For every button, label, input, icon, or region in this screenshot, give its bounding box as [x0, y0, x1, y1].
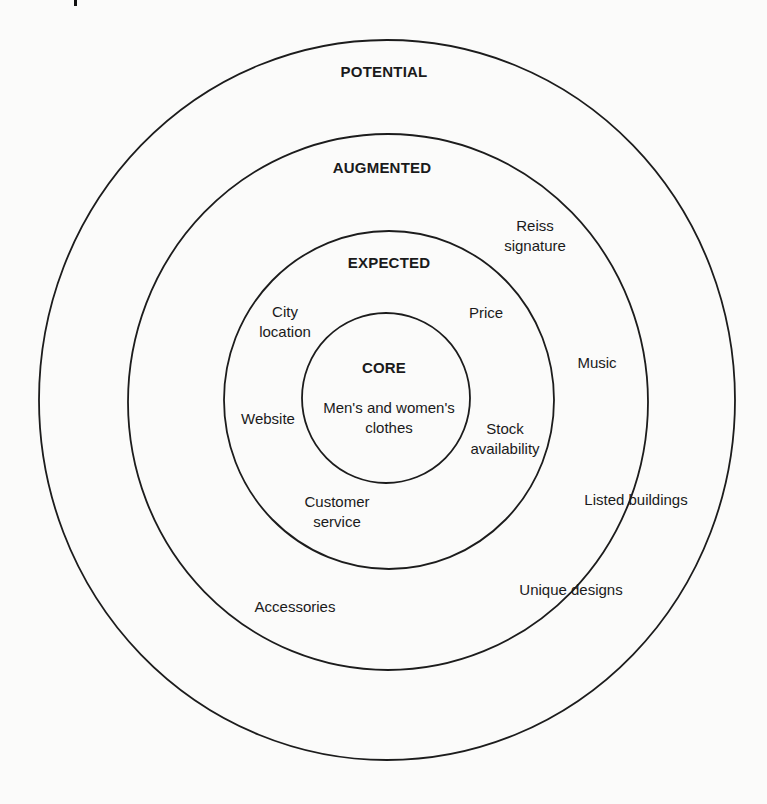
core-item-line2: clothes: [323, 418, 455, 438]
city-line2: location: [259, 322, 311, 342]
augmented-title: AUGMENTED: [333, 158, 431, 178]
expected-item-stock-availability: Stock availability: [470, 419, 539, 459]
augmented-item-accessories: Accessories: [255, 597, 336, 617]
customer-line2: service: [304, 512, 369, 532]
city-line1: City: [259, 302, 311, 322]
core-item-line1: Men's and women's: [323, 398, 455, 418]
augmented-item-reiss-signature: Reiss signature: [504, 216, 566, 256]
stock-line2: availability: [470, 439, 539, 459]
potential-title: POTENTIAL: [341, 62, 428, 82]
augmented-item-music: Music: [577, 353, 616, 373]
augmented-item-unique-designs: Unique designs: [519, 580, 622, 600]
core-item-clothes: Men's and women's clothes: [323, 398, 455, 438]
core-title: CORE: [362, 358, 406, 378]
expected-item-price: Price: [469, 303, 503, 323]
reiss-line2: signature: [504, 236, 566, 256]
expected-item-city-location: City location: [259, 302, 311, 342]
stock-line1: Stock: [470, 419, 539, 439]
reiss-line1: Reiss: [504, 216, 566, 236]
expected-title: EXPECTED: [348, 253, 430, 273]
expected-item-website: Website: [241, 409, 295, 429]
customer-line1: Customer: [304, 492, 369, 512]
expected-item-customer-service: Customer service: [304, 492, 369, 532]
augmented-item-listed-buildings: Listed buildings: [584, 490, 687, 510]
product-levels-diagram: POTENTIAL AUGMENTED EXPECTED CORE Men's …: [0, 0, 767, 804]
